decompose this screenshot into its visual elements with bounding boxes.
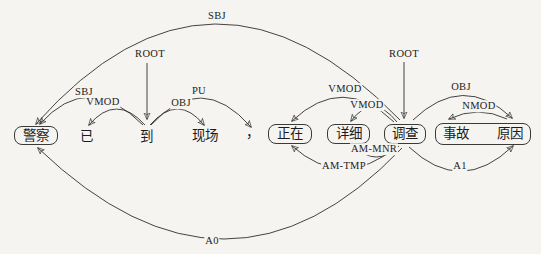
arc-label-root-right: ROOT <box>388 48 420 60</box>
arc-nmod-path <box>449 112 507 119</box>
arc-label-vmod-xiangxi: VMOD <box>349 99 384 111</box>
arc-sbj-top-path <box>36 24 400 124</box>
arc-label-root-left: ROOT <box>134 48 166 60</box>
token-shigu: 事故 <box>443 127 469 141</box>
token-box-jingcha: 警察 <box>14 126 58 145</box>
arc-label-a0: A0 <box>204 235 219 247</box>
token-comma: ， <box>246 126 259 140</box>
token-box-shigu-yuanyin: 事故 原因 <box>435 123 531 145</box>
token-yuanyin: 原因 <box>497 127 523 141</box>
token-diaocha: 调查 <box>392 127 418 141</box>
arc-label-am-mnr: AM-MNR <box>350 143 398 155</box>
arc-label-sbj-top: SBJ <box>207 10 227 22</box>
token-box-xiangxi: 详细 <box>327 124 370 144</box>
token-yi: 已 <box>80 130 93 144</box>
arc-pu-path <box>151 98 251 127</box>
token-zhengzai: 正在 <box>277 127 303 141</box>
token-jingcha: 警察 <box>23 129 49 143</box>
arc-label-pu: PU <box>191 85 207 97</box>
arc-label-obj-right: OBJ <box>450 81 472 93</box>
arc-label-obj-left: OBJ <box>170 97 192 109</box>
arc-vmod-left-path <box>89 109 145 125</box>
token-dao: 到 <box>140 130 153 144</box>
token-xianchang: 现场 <box>192 129 218 143</box>
token-xiangxi: 详细 <box>336 127 362 141</box>
token-box-zhengzai: 正在 <box>268 124 312 144</box>
arc-obj-left-path <box>150 109 204 125</box>
token-box-diaocha: 调查 <box>384 124 426 144</box>
arc-label-nmod: NMOD <box>461 100 496 112</box>
arc-label-a1: A1 <box>452 160 467 172</box>
dependency-parse-figure: 警察 已 到 现场 ， 正在 详细 调查 事故 原因 SBJ ROOT SBJ … <box>0 0 541 254</box>
arc-label-am-tmp: AM-TMP <box>321 160 367 172</box>
arc-label-vmod-left: VMOD <box>85 96 120 108</box>
arc-label-vmod-zhengzai: VMOD <box>327 83 362 95</box>
